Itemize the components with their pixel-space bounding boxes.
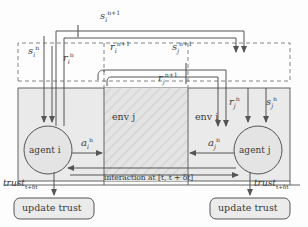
env-j-label: env j [112,112,135,122]
label-r-i-n: rin [63,52,74,66]
trust-left-label: trustt+δt [3,179,37,190]
diagram-canvas: sin+1 sin rin rin+1 sjn+1 rjn+1 rjn sjn … [0,0,308,227]
dashed-boundary [18,43,290,88]
label-s-j-np1: sjn+1 [172,41,192,55]
interaction-label: interaction at [t, t + δt] [104,174,193,182]
agent-i-label: agent i [29,146,61,155]
label-a-i-n: ain [81,137,93,151]
label-r-j-n: rjn [229,96,240,110]
label-s-i-n: sin [28,45,39,59]
update-trust-left-label[interactable]: update trust [22,203,82,213]
diagram-graphics [0,0,308,227]
env-i-label: env i [195,112,218,122]
trust-right-label: trustt+δt [254,179,288,190]
label-s-i-np1: sin+1 [100,10,120,24]
label-a-j-n: ajn [208,137,220,151]
agent-j-label: agent j [239,146,271,155]
label-s-j-n: sjn [266,96,277,110]
label-r-j-np1: rjn+1 [158,72,178,86]
label-r-i-np1: rin+1 [110,41,130,55]
update-trust-right-label[interactable]: update trust [218,203,278,213]
edge-mid-left-stubs [98,70,112,86]
